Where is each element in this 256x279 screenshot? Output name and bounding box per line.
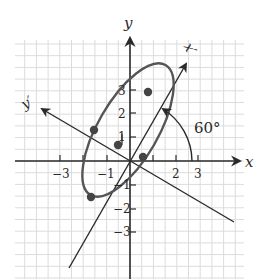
x-tick-label: −3 [52, 167, 70, 181]
point [90, 126, 98, 134]
x-tick-label: 3 [194, 167, 202, 181]
point [87, 193, 95, 201]
x-axis-label: x [245, 153, 254, 171]
y-tick-label: −1 [113, 178, 131, 192]
y-tick-label: 2 [118, 107, 126, 121]
y-tick-label: −3 [113, 225, 131, 239]
y-tick-label: 3 [118, 84, 126, 98]
y-axis-label: y [123, 14, 133, 32]
y-tick-label: −2 [113, 202, 131, 216]
y-tick-label: 1 [118, 130, 126, 144]
point [144, 88, 152, 96]
rotated-axes-ellipse-diagram: y x x′ y′ −3 −1 2 3 3 2 1 −1 −2 −3 60° [0, 0, 256, 279]
angle-label: 60° [194, 119, 221, 137]
x-tick-label: 2 [172, 167, 180, 181]
point [139, 153, 147, 161]
